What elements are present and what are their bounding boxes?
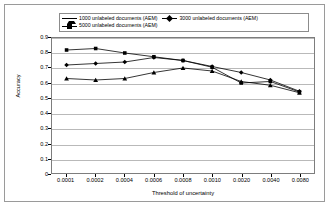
data-point [64, 63, 69, 68]
data-point [152, 55, 156, 59]
data-point [210, 65, 214, 69]
legend-label-5000: 5000 unlabeled documents (AEM) [79, 22, 157, 29]
y-tick-label: 0.5 [28, 95, 48, 101]
y-axis-label: Accuracy [15, 56, 21, 116]
series-lines [52, 38, 314, 173]
y-tick-label: 0.9 [28, 34, 48, 40]
data-point [122, 60, 127, 65]
legend-entry-5000: 5000 unlabeled documents (AEM) [62, 22, 157, 29]
legend-key-diamond-icon [162, 15, 177, 22]
legend-row-2: 5000 unlabeled documents (AEM) [62, 22, 306, 29]
data-point [93, 61, 98, 66]
chart-legend: 1000 unlabeled documents (AEM) 3000 unla… [59, 13, 309, 32]
y-tick-label: 0.4 [28, 110, 48, 116]
y-tick-label: 0.3 [28, 125, 48, 131]
data-point [298, 90, 302, 94]
y-tick-label: 0.7 [28, 64, 48, 70]
data-point [65, 48, 69, 52]
plot-area [51, 37, 315, 174]
data-point [239, 70, 244, 75]
data-point [269, 80, 273, 84]
legend-label-1000: 1000 unlabeled documents (AEM) [79, 15, 157, 22]
legend-row-1: 1000 unlabeled documents (AEM) 3000 unla… [62, 15, 306, 22]
data-point [123, 51, 127, 55]
y-axis-tick-labels: 00.10.20.30.40.50.60.70.80.9 [27, 37, 48, 174]
legend-label-3000: 3000 unlabeled documents (AEM) [179, 15, 257, 22]
y-tick-mark [48, 174, 51, 175]
legend-key-triangle-icon [62, 15, 77, 22]
series-0 [64, 66, 302, 95]
y-tick-label: 0.1 [28, 156, 48, 162]
chart-figure: 1000 unlabeled documents (AEM) 3000 unla… [0, 0, 331, 208]
y-tick-label: 0.2 [28, 141, 48, 147]
legend-entry-1000: 1000 unlabeled documents (AEM) [62, 15, 157, 22]
chart-frame: 1000 unlabeled documents (AEM) 3000 unla… [4, 4, 325, 202]
y-tick-label: 0.6 [28, 80, 48, 86]
data-point [94, 47, 98, 51]
legend-key-square-icon [62, 23, 77, 30]
x-tick-label: 0.0080 [280, 177, 320, 183]
x-axis-tick-labels: 0.00010.00020.00040.00060.00080.00100.00… [51, 177, 315, 187]
series-2 [65, 47, 301, 94]
data-point [181, 59, 185, 63]
legend-entry-3000: 3000 unlabeled documents (AEM) [162, 15, 257, 22]
x-axis-label: Threshold of uncertainty [51, 190, 315, 196]
data-point [239, 81, 243, 85]
y-tick-label: 0.8 [28, 49, 48, 55]
